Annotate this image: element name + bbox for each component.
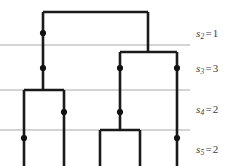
level-label-s3-value: 3 [213,62,219,74]
level-label-s2: s2=1 [196,27,219,41]
level-label-s3: s3=3 [196,62,219,76]
level-label-s2-equals: = [205,27,211,39]
level-label-s5-value: 2 [213,143,219,155]
node-trunk-lower [40,65,46,71]
node-leaf5-mark [174,135,180,141]
level-label-s4-equals: = [205,103,211,115]
tree-branches-group [24,12,177,166]
level-label-s2-value: 1 [213,27,219,39]
level-label-s2-subscript: 2 [200,32,204,41]
node-right-clade-left [117,65,123,71]
node-right-clade-right [174,65,180,71]
tree-nodes-group [21,30,180,141]
level-label-s5-subscript: 5 [200,148,204,157]
level-label-s4-value: 2 [213,103,219,115]
node-left-clade-right [61,109,67,115]
coalescent-tree-figure [0,0,248,166]
node-trunk-upper [40,30,46,36]
level-label-s4-subscript: 4 [200,108,204,117]
node-leaf1-mark [21,135,27,141]
gridlines-group [0,45,190,130]
level-label-s5-equals: = [205,143,211,155]
level-label-s3-equals: = [205,62,211,74]
level-label-s4: s4=2 [196,103,219,117]
level-label-s3-subscript: 3 [200,67,204,76]
node-center-stem [117,109,123,115]
level-label-s5: s5=2 [196,143,219,157]
